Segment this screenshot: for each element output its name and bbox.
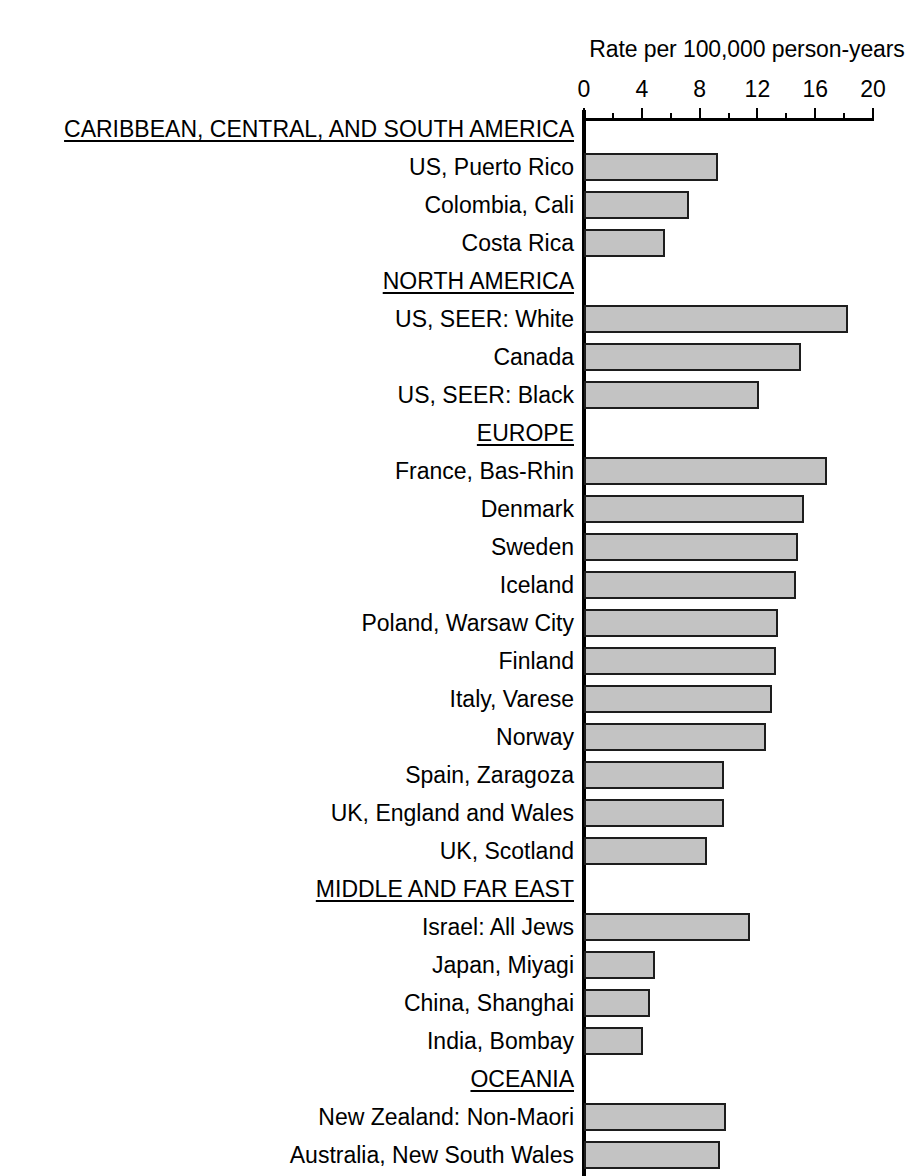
bar-row: US, SEER: White [0, 300, 911, 338]
bar-row-label: Australia, New South Wales [290, 1136, 574, 1174]
bar-row: Italy, Varese [0, 680, 911, 718]
bar [584, 951, 655, 979]
bar-row: New Zealand: Non-Maori [0, 1098, 911, 1136]
x-tick-label-4: 4 [635, 76, 648, 103]
bar-row-label: Japan, Miyagi [432, 946, 574, 984]
bar-row-label: Norway [496, 718, 574, 756]
bar-row-label: France, Bas-Rhin [395, 452, 574, 490]
bar-row: Norway [0, 718, 911, 756]
x-tick-label-12: 12 [745, 76, 771, 103]
group-header-row: NORTH AMERICA [0, 262, 911, 300]
bar-row-label: Iceland [500, 566, 574, 604]
bar-row-label: Colombia, Cali [424, 186, 574, 224]
x-tick-label-20: 20 [860, 76, 886, 103]
bar-row: US, SEER: Black [0, 376, 911, 414]
bar [584, 1103, 726, 1131]
bar-row: Israel: All Jews [0, 908, 911, 946]
bar-row-label: UK, Scotland [440, 832, 574, 870]
group-header-label: MIDDLE AND FAR EAST [316, 870, 574, 908]
bar-row: Colombia, Cali [0, 186, 911, 224]
bar-row-label: UK, England and Wales [331, 794, 574, 832]
x-axis-tick-labels: 048121620 [584, 76, 884, 102]
bar [584, 723, 766, 751]
bar [584, 647, 776, 675]
bar-row-label: New Zealand: Non-Maori [318, 1098, 574, 1136]
bar-row: China, Shanghai [0, 984, 911, 1022]
bar-row-label: Denmark [481, 490, 574, 528]
bar [584, 533, 798, 561]
bar [584, 685, 772, 713]
bar-row-label: Spain, Zaragoza [405, 756, 574, 794]
bar-row-label: US, SEER: White [395, 300, 574, 338]
bar [584, 761, 724, 789]
bar-row: Japan, Miyagi [0, 946, 911, 984]
bar-row: France, Bas-Rhin [0, 452, 911, 490]
group-header-label: NORTH AMERICA [383, 262, 574, 300]
bar-row-label: Sweden [491, 528, 574, 566]
bar [584, 153, 718, 181]
bar [584, 457, 827, 485]
group-header-label: CARIBBEAN, CENTRAL, AND SOUTH AMERICA [64, 110, 574, 148]
bar [584, 989, 650, 1017]
x-tick-label-16: 16 [802, 76, 828, 103]
bar-row: Denmark [0, 490, 911, 528]
bar-row: Canada [0, 338, 911, 376]
bar [584, 381, 759, 409]
bar [584, 1027, 643, 1055]
bar-row: Costa Rica [0, 224, 911, 262]
bar [584, 191, 689, 219]
bar-row-label: Costa Rica [462, 224, 574, 262]
bar-row-label: Canada [493, 338, 574, 376]
bar-row-label: Israel: All Jews [422, 908, 574, 946]
bar-row-label: India, Bombay [427, 1022, 574, 1060]
bar-row: UK, England and Wales [0, 794, 911, 832]
bar [584, 609, 778, 637]
bar-row: UK, Scotland [0, 832, 911, 870]
bar-row-label: US, Puerto Rico [409, 148, 574, 186]
bar [584, 229, 665, 257]
bar [584, 913, 750, 941]
group-header-row: EUROPE [0, 414, 911, 452]
bar [584, 1141, 720, 1169]
bar-row-label: China, Shanghai [404, 984, 574, 1022]
bar-row: Sweden [0, 528, 911, 566]
bar [584, 495, 804, 523]
bar-row: Spain, Zaragoza [0, 756, 911, 794]
bar [584, 799, 724, 827]
x-tick-label-0: 0 [578, 76, 591, 103]
bar-row: Finland [0, 642, 911, 680]
x-tick-label-8: 8 [693, 76, 706, 103]
bar-row: US, Puerto Rico [0, 148, 911, 186]
bar-row: Iceland [0, 566, 911, 604]
bar [584, 343, 801, 371]
bar-row: Australia, New South Wales [0, 1136, 911, 1174]
bar-row: Poland, Warsaw City [0, 604, 911, 642]
group-header-row: OCEANIA [0, 1060, 911, 1098]
bar-row-label: Poland, Warsaw City [361, 604, 574, 642]
bar-row-label: Italy, Varese [450, 680, 574, 718]
group-header-row: MIDDLE AND FAR EAST [0, 870, 911, 908]
bar-row: India, Bombay [0, 1022, 911, 1060]
bar [584, 837, 707, 865]
chart-axis-title: Rate per 100,000 person-years [584, 36, 910, 63]
bar-row-label: US, SEER: Black [398, 376, 574, 414]
group-header-label: OCEANIA [470, 1060, 574, 1098]
group-header-label: EUROPE [477, 414, 574, 452]
bar-row-label: Finland [499, 642, 574, 680]
group-header-row: CARIBBEAN, CENTRAL, AND SOUTH AMERICA [0, 110, 911, 148]
bar [584, 571, 796, 599]
bar [584, 305, 848, 333]
chart-rows: CARIBBEAN, CENTRAL, AND SOUTH AMERICAUS,… [0, 110, 911, 1174]
